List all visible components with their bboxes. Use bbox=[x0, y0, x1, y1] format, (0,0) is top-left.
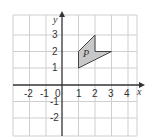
svg-text:-1: -1 bbox=[40, 88, 49, 99]
svg-text:1: 1 bbox=[52, 62, 58, 73]
coordinate-grid-diagram: P x y -2 -1 0 1 2 3 4 3 2 1 -1 -2 bbox=[0, 0, 150, 138]
y-tick-labels: 3 2 1 -1 -2 bbox=[50, 29, 59, 123]
svg-text:3: 3 bbox=[52, 29, 58, 40]
svg-text:2: 2 bbox=[92, 88, 98, 99]
x-tick-labels: -2 -1 0 1 2 3 4 bbox=[24, 88, 130, 99]
svg-text:3: 3 bbox=[108, 88, 114, 99]
svg-text:4: 4 bbox=[124, 88, 130, 99]
svg-text:1: 1 bbox=[76, 88, 82, 99]
svg-text:2: 2 bbox=[52, 46, 58, 57]
y-axis-arrow-icon bbox=[59, 11, 65, 17]
svg-text:-1: -1 bbox=[50, 96, 59, 107]
shape-label: P bbox=[82, 48, 89, 59]
grid-lines bbox=[13, 15, 137, 136]
svg-text:-2: -2 bbox=[24, 88, 33, 99]
x-axis-label: x bbox=[136, 86, 142, 97]
svg-text:-2: -2 bbox=[50, 112, 59, 123]
y-axis-label: y bbox=[52, 14, 58, 25]
